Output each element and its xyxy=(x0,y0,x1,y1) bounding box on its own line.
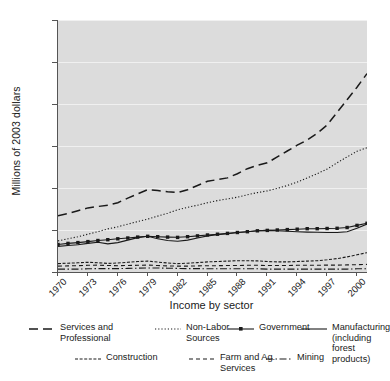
series-marker xyxy=(156,235,159,238)
series-marker xyxy=(66,242,69,245)
x-axis-tick-mark xyxy=(326,272,327,276)
legend-label: Services and Professional xyxy=(60,322,113,343)
series-marker xyxy=(325,227,328,230)
legend-label: Construction xyxy=(106,352,158,363)
series-marker xyxy=(355,224,358,227)
series-manufacturing-including-forest-products xyxy=(58,224,367,246)
x-axis-tick-mark xyxy=(266,272,267,276)
legend-item[interactable]: Farm and Ag. Services xyxy=(188,352,275,373)
x-axis-tick-mark xyxy=(177,272,178,276)
series-farm-and-ag-services xyxy=(58,264,367,266)
series-marker xyxy=(176,236,179,239)
series-marker xyxy=(186,235,189,238)
legend-key-dash-dot-icon xyxy=(265,355,293,363)
x-axis-tick-mark xyxy=(117,272,118,276)
legend-key xyxy=(300,325,328,337)
legend-key-dash-icon xyxy=(188,355,216,363)
series-construction xyxy=(58,253,367,264)
series-marker xyxy=(116,237,119,240)
chart-figure: Millions of 2003 dollars 02004006008001,… xyxy=(0,0,378,318)
series-marker xyxy=(345,226,348,229)
legend-item[interactable]: Services and Professional xyxy=(28,322,113,343)
x-axis-title: Income by sector xyxy=(57,299,366,311)
legend-key-wave-icon xyxy=(74,355,102,363)
x-axis-tick-mark xyxy=(207,272,208,276)
plot-area xyxy=(57,20,367,273)
series-mining xyxy=(58,268,367,269)
x-axis-tick-mark xyxy=(236,272,237,276)
series-marker xyxy=(76,241,79,244)
legend-key xyxy=(265,355,293,367)
series-marker xyxy=(58,243,60,246)
legend-key xyxy=(227,325,255,337)
series-marker xyxy=(296,228,299,231)
x-axis-tick-mark xyxy=(147,272,148,276)
series-government xyxy=(58,222,367,247)
x-axis-tick-mark xyxy=(356,272,357,276)
legend-key-solid-icon xyxy=(300,325,328,333)
legend-item[interactable]: Non-Labor Sources xyxy=(154,322,229,343)
series-marker xyxy=(196,234,199,237)
legend-item[interactable]: Construction xyxy=(74,352,158,367)
legend-item[interactable]: Mining xyxy=(265,352,324,367)
series-marker xyxy=(126,236,129,239)
series-marker xyxy=(335,227,338,230)
series-marker xyxy=(166,235,169,238)
series-non-labor-sources xyxy=(58,148,367,241)
legend-label: Mining xyxy=(297,352,324,363)
series-services-and-professional xyxy=(58,74,367,216)
x-axis-tick-mark xyxy=(57,272,58,276)
legend-key-long-dash-icon xyxy=(28,325,56,333)
legend-key-dotted-icon xyxy=(154,325,182,333)
legend-key xyxy=(154,325,182,337)
x-axis-tick-mark xyxy=(296,272,297,276)
legend-key-line-marker-icon xyxy=(227,325,255,333)
chart-legend: Services and ProfessionalNon-Labor Sourc… xyxy=(0,320,378,381)
legend-item[interactable]: Government xyxy=(227,322,310,337)
x-axis-tick-mark xyxy=(87,272,88,276)
legend-key xyxy=(188,355,216,367)
series-marker xyxy=(106,238,109,241)
legend-key xyxy=(74,355,102,367)
legend-label: Manufacturing (including forest products… xyxy=(332,322,390,364)
series-lines xyxy=(58,20,367,272)
legend-key xyxy=(28,325,56,337)
series-marker xyxy=(306,227,309,230)
series-marker xyxy=(316,227,319,230)
y-axis-title: Millions of 2003 dollars xyxy=(10,46,22,236)
legend-label: Non-Labor Sources xyxy=(186,322,229,343)
